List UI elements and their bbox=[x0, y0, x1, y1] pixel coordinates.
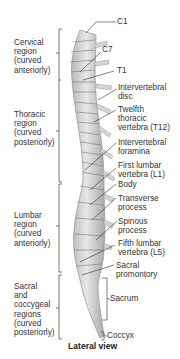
label-sacral-promontory: Sacral promontory bbox=[116, 261, 157, 279]
figure-caption: Lateral view bbox=[68, 341, 117, 351]
label-sacrum: Sacrum bbox=[110, 294, 138, 303]
label-l5: Fifth lumbar vertebra (L5) bbox=[118, 239, 165, 257]
label-t12: Twelfth thoracic vertebra (T12) bbox=[118, 105, 170, 133]
label-intervertebral-disc: Intervertebral disc bbox=[118, 83, 166, 101]
label-l1: First lumbar vertebra (L1) bbox=[118, 161, 165, 179]
label-spinous-process: Spinous process bbox=[118, 217, 148, 235]
label-coccyx: Coccyx bbox=[107, 331, 134, 340]
label-t1: T1 bbox=[117, 66, 127, 75]
label-c7: C7 bbox=[102, 45, 112, 54]
region-lumbar: Lumbar region (curved anteriorly) bbox=[14, 211, 50, 248]
label-intervertebral-foramina: Intervertebral foramina bbox=[118, 138, 166, 156]
region-cervical: Cervical region (curved anteriorly) bbox=[14, 38, 50, 75]
label-c1: C1 bbox=[117, 17, 127, 26]
label-transverse-process: Transverse process bbox=[118, 194, 159, 212]
region-sacral-coccygeal: Sacral and coccygeal regions (curved pos… bbox=[14, 282, 55, 337]
label-body: Body bbox=[118, 180, 137, 189]
vertebral-column bbox=[71, 30, 104, 338]
region-brackets bbox=[56, 29, 62, 339]
region-thoracic: Thoracic region (curved posteriorly) bbox=[14, 110, 55, 147]
